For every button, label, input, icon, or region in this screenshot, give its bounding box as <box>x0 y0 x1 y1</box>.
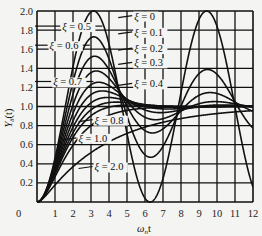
x-tick-label: 8 <box>178 208 183 219</box>
curve-label: ξ = 0 <box>134 11 155 23</box>
y-axis-title: Yδ(t) <box>3 108 16 128</box>
curve-label: ξ = 1.0 <box>78 133 107 145</box>
curve-label: ξ = 0.8 <box>95 115 124 127</box>
x-tick-label: 5 <box>124 208 129 219</box>
x-tick-label: 6 <box>142 208 147 219</box>
curve-label: ξ = 0.5 <box>62 21 91 33</box>
curve-label: ξ = 2.0 <box>95 161 124 173</box>
x-tick-label: 1 <box>52 208 57 219</box>
y-tick-label: 0.6 <box>20 139 33 150</box>
x-axis-ticks: 123456789101112 <box>52 208 258 219</box>
y-tick-label: 0.2 <box>20 177 33 188</box>
curve-label: ξ = 0.7 <box>53 76 82 88</box>
x-tick-label: 4 <box>106 208 112 219</box>
curve-label: ξ = 0.2 <box>134 43 163 55</box>
y-tick-label: 1.0 <box>20 101 33 112</box>
y-axis-ticks: 0.20.40.60.81.01.21.41.61.82.0 <box>20 6 34 189</box>
y-tick-label: 1.8 <box>20 25 33 36</box>
origin-label: 0 <box>16 208 21 219</box>
y-tick-label: 0.8 <box>20 120 33 131</box>
y-tick-label: 1.6 <box>20 44 33 55</box>
x-axis-title: ωnt <box>137 223 151 236</box>
curve-label: ξ = 0.1 <box>134 27 163 39</box>
x-tick-label: 10 <box>212 208 223 219</box>
x-tick-label: 3 <box>88 208 93 219</box>
x-title-suffix: t <box>148 223 151 234</box>
curve-label: ξ = 0.3 <box>134 57 163 69</box>
y-title-suffix: (t) <box>3 108 15 118</box>
curve-label: ξ = 0.6 <box>50 40 79 52</box>
y-tick-label: 1.2 <box>20 82 33 93</box>
x-tick-label: 2 <box>70 208 75 219</box>
y-tick-label: 0.4 <box>20 158 34 169</box>
curve-label: ξ = 0.4 <box>134 78 164 90</box>
step-response-chart: 123456789101112 0.20.40.60.81.01.21.41.6… <box>0 0 262 236</box>
x-tick-label: 7 <box>160 208 165 219</box>
y-tick-label: 2.0 <box>20 6 33 17</box>
y-tick-label: 1.4 <box>20 63 34 74</box>
x-title-main: ω <box>137 223 144 234</box>
x-tick-label: 9 <box>196 208 201 219</box>
x-tick-label: 12 <box>248 208 259 219</box>
x-tick-label: 11 <box>230 208 240 219</box>
